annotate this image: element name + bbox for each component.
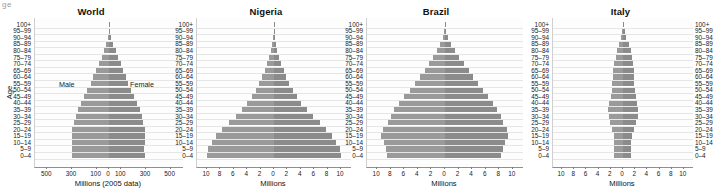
x-tick-label: 4 (469, 170, 473, 177)
bar-male (207, 153, 274, 158)
x-tick-mark (327, 167, 328, 169)
bar-male (247, 101, 274, 106)
x-tick-mark (108, 167, 109, 169)
bar-male (265, 68, 274, 73)
bar-row (553, 61, 693, 66)
bar-male (609, 114, 623, 119)
bar-female (623, 120, 636, 125)
bar-row (553, 146, 693, 151)
x-tick-label: 2 (429, 170, 433, 177)
bar-female (623, 68, 634, 73)
bar-row (553, 42, 693, 47)
x-tick-label: 10 (373, 170, 380, 177)
bar-female (623, 81, 634, 86)
x-axis-title: Millions (366, 179, 522, 188)
bar-female (445, 42, 451, 47)
age-axis-labels-right: 100+95–9990–9485–8980–8475–7970–7465–696… (695, 18, 719, 167)
bar-female (623, 146, 631, 151)
bar-female (623, 29, 625, 34)
bar-female (274, 35, 275, 40)
bar-male (612, 81, 623, 86)
bar-female (274, 107, 307, 112)
bar-male (87, 88, 109, 93)
x-tick-mark (233, 167, 234, 169)
population-pyramid-figure: ge World Age 100+95–9990–9485–8980–8475–… (0, 0, 719, 191)
x-tick-label: 10 (336, 170, 343, 177)
bar-male (394, 107, 445, 112)
bar-row (197, 88, 351, 93)
bar-row (197, 120, 351, 125)
x-tick-mark (598, 167, 599, 169)
bar-row (35, 146, 183, 151)
bar-male (616, 55, 623, 60)
bar-male (72, 146, 109, 151)
x-tick-label: 10 (679, 170, 686, 177)
bar-row (553, 133, 693, 138)
x-tick-mark (390, 167, 391, 169)
x-tick-label: 8 (388, 170, 392, 177)
bar-male (384, 140, 445, 145)
bar-male (76, 114, 109, 119)
x-tick-label: 500 (41, 170, 52, 177)
bar-row (367, 114, 523, 119)
bar-female (109, 88, 131, 93)
bar-female (623, 133, 632, 138)
x-tick-mark (430, 167, 431, 169)
bar-row (35, 74, 183, 79)
age-tick-label: 0–4 (695, 153, 719, 159)
x-tick-mark (313, 167, 314, 169)
bar-female (623, 94, 636, 99)
age-axis-labels-left: 100+95–9990–9485–8980–8475–7970–7465–696… (163, 18, 193, 167)
bar-male (102, 55, 109, 60)
bar-male (256, 88, 274, 93)
x-tick-label: 100 (90, 170, 101, 177)
bar-row (35, 140, 183, 145)
bar-row (35, 120, 183, 125)
bar-row (553, 114, 693, 119)
x-tick-mark (145, 167, 146, 169)
bar-row (35, 107, 183, 112)
bar-row (197, 81, 351, 86)
bar-row (553, 88, 693, 93)
x-tick-mark (585, 167, 586, 169)
bar-male (267, 61, 274, 66)
bar-female (623, 127, 634, 132)
bar-row (367, 35, 523, 40)
bar-row (553, 127, 693, 132)
bar-row (197, 61, 351, 66)
bar-male (252, 94, 274, 99)
bar-female (623, 48, 631, 53)
bar-male (437, 48, 445, 53)
x-tick-mark (444, 167, 445, 169)
bar-row (197, 55, 351, 60)
bar-male (386, 146, 445, 151)
bar-female (109, 81, 128, 86)
bar-female (623, 140, 631, 145)
chart-panel-italy: Italy 100+95–9990–9485–8980–8475–7970–74… (522, 0, 719, 191)
age-axis-labels-left: 100+95–9990–9485–8980–8475–7970–7465–696… (1, 18, 31, 167)
x-tick-mark (286, 167, 287, 169)
bar-row (367, 107, 523, 112)
bar-female (274, 81, 289, 86)
bar-male (391, 114, 445, 119)
bar-male (614, 61, 623, 66)
bar-female (274, 133, 332, 138)
bar-row (35, 68, 183, 73)
x-tick-mark (659, 167, 660, 169)
x-axis-title: Millions (552, 179, 692, 188)
bar-row (367, 120, 523, 125)
bar-row (197, 140, 351, 145)
bar-male (399, 101, 445, 106)
x-tick-label: 10 (508, 170, 515, 177)
bar-female (109, 120, 143, 125)
bar-male (613, 74, 623, 79)
x-tick-mark (96, 167, 97, 169)
x-tick-label: 500 (164, 170, 175, 177)
bar-male (611, 94, 623, 99)
bar-male (99, 61, 109, 66)
bar-female (109, 153, 145, 158)
bar-row (367, 29, 523, 34)
bar-row (35, 29, 183, 34)
bar-female (274, 120, 320, 125)
x-tick-mark (561, 167, 562, 169)
